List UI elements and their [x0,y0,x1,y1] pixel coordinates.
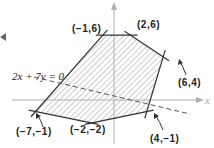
pointer-arrowhead-7-1 [36,113,41,119]
line-equation-label: 2x + 7y = 0 [12,70,65,82]
page-marker-icon [0,33,6,41]
vertex-label-5: (−7,−1) [16,126,52,137]
pointer-arrow-4-1 [156,116,163,130]
pointer-arrowhead-4-1 [154,113,159,119]
feasible-region-diagram: x 2x + 7y = 0 (−1,6) (2,6) (6,4) (4,−1) … [0,0,214,148]
x-axis-arrow-icon [196,97,204,103]
vertex-label-0: (−1,6) [72,23,101,34]
vertex-label-2: (6,4) [178,77,201,88]
pointer-arrow-6-4 [180,62,186,75]
vertex-label-3: (4,−1) [150,133,179,144]
vertex-label-4: (−2,−2) [70,124,106,135]
y-axis-arrow-icon [111,2,117,10]
vertex-label-1: (2,6) [137,19,160,30]
x-axis-label: x [204,94,210,106]
pointer-arrowhead-6-4 [178,59,183,65]
